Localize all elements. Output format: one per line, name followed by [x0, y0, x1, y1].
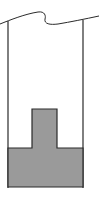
t-shaped-solid — [8, 109, 83, 187]
break-line — [0, 12, 99, 24]
container-diagram — [0, 0, 99, 199]
